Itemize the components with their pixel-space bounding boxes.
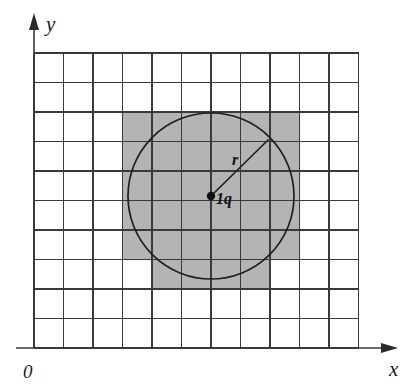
up-arrow-icon	[29, 13, 39, 30]
y-axis	[29, 13, 39, 348]
shaded-cell	[123, 171, 153, 201]
shaded-cell	[211, 230, 241, 260]
x-axis	[16, 343, 398, 353]
shaded-cell	[182, 230, 212, 260]
shaded-cell	[270, 201, 300, 231]
x-axis-label: x	[388, 357, 399, 381]
shaded-cell	[182, 142, 212, 172]
shaded-cell	[152, 112, 182, 142]
shaded-cell	[152, 201, 182, 231]
shaded-cell	[182, 201, 212, 231]
shaded-cell	[270, 171, 300, 201]
shaded-cell	[241, 142, 271, 172]
y-axis-label: y	[44, 12, 56, 36]
grid-circle-diagram: y x 0 r 1q	[0, 0, 415, 386]
shaded-cell	[152, 142, 182, 172]
right-arrow-icon	[381, 343, 398, 353]
shaded-cell	[123, 112, 153, 142]
charge-label: 1q	[216, 190, 232, 208]
shaded-cell	[241, 201, 271, 231]
shaded-cell	[241, 230, 271, 260]
shaded-cell	[123, 201, 153, 231]
shaded-cell	[241, 171, 271, 201]
figure-container: y x 0 r 1q	[0, 0, 415, 386]
shaded-cell	[241, 260, 271, 290]
radius-label: r	[232, 151, 239, 168]
grid-lines	[34, 53, 359, 348]
shaded-cell	[241, 112, 271, 142]
shaded-cell	[152, 171, 182, 201]
shaded-cell	[152, 260, 182, 290]
shaded-cell	[152, 230, 182, 260]
shaded-cell	[270, 142, 300, 172]
origin-label: 0	[23, 361, 33, 382]
shaded-cell	[270, 112, 300, 142]
charge-point	[207, 192, 215, 200]
